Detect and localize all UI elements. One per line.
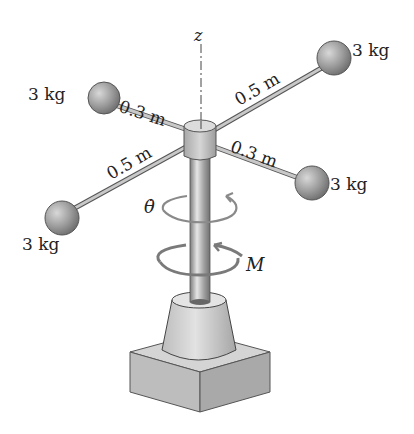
theta-arrow-back [163, 196, 187, 210]
moment-label: M [246, 256, 264, 274]
mass-label-lower-left: 3 kg [22, 236, 59, 253]
vertical-shaft [190, 150, 210, 305]
hub [184, 120, 216, 160]
angular-velocity-label: θ̇ [144, 198, 155, 216]
moment-arrow-back [158, 245, 186, 262]
mass-label-upper-right: 3 kg [330, 176, 367, 193]
mass-label-upper-left: 3 kg [28, 86, 65, 103]
rotating-assembly-diagram: z 3 kg 3 kg 3 kg 3 kg 0.3 m 0.5 m 0.5 m … [0, 0, 414, 434]
diagram-graphics [0, 0, 414, 434]
z-axis-label: z [194, 28, 202, 44]
mass-label-upper-right: 3 kg [352, 42, 389, 59]
